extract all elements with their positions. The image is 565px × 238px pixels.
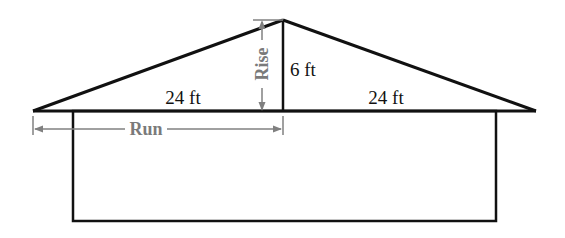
right-span-label: 24 ft (368, 87, 404, 108)
arrow-up-icon (259, 20, 266, 29)
left-span-label: 24 ft (165, 87, 201, 108)
arrow-right-icon (273, 126, 282, 133)
rise-height-label: 6 ft (290, 59, 317, 80)
run-dimension: Run (33, 116, 283, 139)
roof-right-slope (283, 20, 536, 111)
rise-label: Rise (252, 47, 272, 80)
run-label: Run (129, 119, 162, 139)
rise-dimension: Rise (252, 20, 283, 111)
arrow-left-icon (34, 126, 43, 133)
roof-diagram: Rise Run 6 ft 24 ft 24 ft (0, 0, 565, 238)
roof-left-slope (33, 20, 283, 111)
